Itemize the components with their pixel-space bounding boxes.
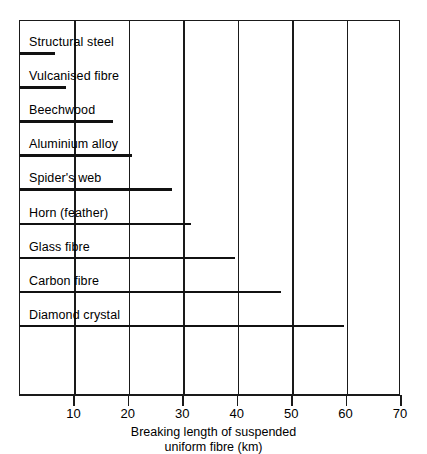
bar-label: Vulcanised fibre — [29, 69, 119, 84]
tick-label-20: 20 — [121, 406, 135, 422]
bar-label: Horn (feather) — [29, 206, 108, 221]
bar-label: Diamond crystal — [29, 308, 120, 323]
bar-label: Aluminium alloy — [29, 137, 118, 152]
bar-label: Carbon fibre — [29, 274, 99, 289]
bar-line — [20, 257, 235, 260]
bar-label: Glass fibre — [29, 240, 90, 255]
tick-label-60: 60 — [338, 406, 352, 422]
gridline-40 — [238, 21, 240, 394]
bar-line — [20, 223, 191, 226]
bar-label: Beechwood — [29, 103, 95, 118]
gridline-20 — [129, 21, 131, 394]
bar-line — [20, 86, 66, 89]
tick-mark-50 — [291, 395, 293, 406]
tick-label-30: 30 — [175, 406, 189, 422]
tick-label-70: 70 — [393, 406, 407, 422]
bar-label: Spider's web — [29, 171, 101, 186]
bar-line — [20, 120, 113, 123]
breaking-length-bar-chart: Structural steelVulcanised fibreBeechwoo… — [0, 0, 427, 454]
gridline-60 — [347, 21, 349, 394]
tick-mark-10 — [73, 395, 75, 406]
tick-label-40: 40 — [229, 406, 243, 422]
tick-mark-40 — [237, 395, 239, 406]
x-axis-tick-labels: 10203040506070 — [19, 406, 400, 424]
bar-line — [20, 52, 55, 55]
x-axis-title-line-1: Breaking length of suspended — [0, 425, 427, 440]
bar-line — [20, 291, 281, 294]
tick-mark-20 — [128, 395, 130, 406]
x-axis-title: Breaking length of suspended uniform fib… — [0, 425, 427, 454]
bar-label: Structural steel — [29, 35, 114, 50]
bar-line — [20, 325, 344, 328]
tick-mark-30 — [182, 395, 184, 406]
bar-line — [20, 188, 172, 191]
bar-line — [20, 154, 132, 157]
plot-area: Structural steelVulcanised fibreBeechwoo… — [19, 20, 400, 395]
tick-label-50: 50 — [284, 406, 298, 422]
x-axis-tick-marks — [19, 395, 400, 406]
tick-label-10: 10 — [66, 406, 80, 422]
gridline-50 — [292, 21, 294, 394]
x-axis-title-line-2: uniform fibre (km) — [0, 440, 427, 454]
tick-mark-70 — [400, 395, 402, 406]
cropped-caption-artifact — [60, 2, 360, 8]
tick-mark-60 — [346, 395, 348, 406]
gridline-30 — [183, 21, 185, 394]
